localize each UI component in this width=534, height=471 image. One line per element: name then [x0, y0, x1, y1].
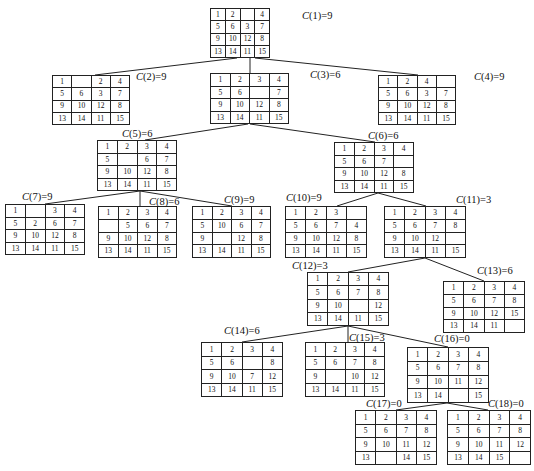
puzzle-row: 1234: [335, 143, 414, 156]
tile: 2: [405, 207, 425, 220]
tile: 15: [394, 180, 414, 193]
edge-6-to-11: [378, 193, 426, 206]
tile: 12: [510, 438, 531, 452]
tile: 12: [416, 438, 436, 452]
tile: 1: [335, 143, 355, 156]
puzzle-row: 5678: [306, 356, 385, 370]
tile: 2: [398, 76, 417, 88]
puzzle-row: 13141115: [335, 180, 414, 193]
tile: 12: [368, 299, 388, 312]
tile: 14: [328, 312, 348, 325]
tile: 7: [157, 153, 177, 166]
puzzle-row: 1234: [306, 343, 385, 357]
edge-11-to-13: [425, 258, 484, 281]
tile: 9: [211, 99, 231, 112]
tile: 6: [72, 88, 91, 100]
tile: 15: [365, 383, 385, 397]
tile: 12: [468, 375, 488, 389]
tile: 7: [489, 424, 510, 438]
tile: 12: [250, 99, 270, 112]
tile: 8: [110, 100, 129, 112]
empty-tile: [346, 207, 366, 220]
edge-3-to-6: [250, 124, 375, 142]
tile: 6: [222, 356, 242, 370]
tile: 15: [346, 245, 366, 258]
tile: 4: [416, 411, 436, 425]
tile: 14: [396, 451, 416, 465]
puzzle-row: 5678: [385, 219, 466, 232]
tile: 10: [398, 100, 417, 112]
cost-label-1: C(1)=9: [302, 10, 332, 21]
tile: 10: [117, 166, 137, 179]
tile: 1: [306, 343, 326, 357]
cost-label-18: C(18)=0: [488, 398, 524, 409]
tile: 9: [385, 232, 405, 245]
cost-function-symbol: C: [349, 332, 356, 343]
tile: 4: [251, 207, 271, 220]
puzzle-row: 124: [211, 9, 270, 21]
tile: 8: [269, 99, 289, 112]
puzzle-row: 567: [335, 155, 414, 168]
tile: 7: [345, 356, 365, 370]
puzzle-row: 1234: [308, 273, 389, 286]
puzzle-row: 5678: [444, 294, 525, 307]
cost-label-12: C(12)=3: [292, 260, 328, 271]
cost-label-14: C(14)=6: [224, 325, 260, 336]
tile: 5: [202, 356, 222, 370]
tile: 13: [193, 245, 213, 258]
cost-function-symbol: C: [136, 71, 143, 82]
tile: 11: [138, 245, 158, 258]
cost-label-11: C(11)=3: [456, 194, 491, 205]
tile: 1: [286, 207, 306, 220]
puzzle-row: 910712: [202, 370, 283, 384]
cost-value-text: (1)=9: [309, 10, 332, 21]
tile: 1: [53, 76, 72, 88]
tile: 4: [110, 76, 129, 88]
empty-tile: [376, 451, 396, 465]
tile: 8: [251, 232, 271, 245]
tile: 11: [345, 383, 365, 397]
cost-label-5: C(5)=6: [122, 128, 152, 139]
tile: 12: [137, 166, 157, 179]
tile: 14: [464, 320, 484, 333]
puzzle-row: 9128: [193, 232, 271, 245]
tile: 6: [376, 424, 396, 438]
puzzle-row: 131415: [448, 451, 531, 465]
empty-tile: [72, 76, 91, 88]
empty-tile: [250, 86, 270, 99]
puzzle-row: 5267: [6, 217, 85, 230]
tile: 11: [137, 178, 157, 191]
tile: 2: [230, 74, 250, 87]
cost-label-13: C(13)=6: [477, 265, 513, 276]
cost-value-text: (4)=9: [481, 71, 504, 82]
puzzle-row: 1234: [444, 282, 525, 295]
cost-value-text: (14)=6: [231, 325, 260, 336]
empty-tile: [240, 9, 255, 21]
tile: 7: [251, 219, 271, 232]
tile: 4: [445, 207, 465, 220]
tile: 13: [202, 383, 222, 397]
puzzle-row: 13141115: [211, 111, 289, 124]
tile: 6: [137, 153, 157, 166]
puzzle-row: 9101112: [448, 438, 531, 452]
tile: 13: [6, 242, 26, 255]
tile: 1: [211, 74, 231, 87]
tile: 14: [117, 178, 137, 191]
puzzle-state-2: 124563791012813141115: [52, 75, 130, 125]
puzzle-row: 131415: [408, 389, 489, 403]
tile: 2: [306, 207, 326, 220]
puzzle-state-8: 123456791012813141115: [98, 206, 177, 258]
cost-value-text: (15)=3: [356, 332, 385, 343]
tile: 3: [425, 207, 445, 220]
puzzle-row: 5674: [286, 219, 367, 232]
tile: 1: [356, 411, 376, 425]
tile: 12: [91, 100, 110, 112]
tile: 1: [99, 207, 119, 220]
tile: 11: [425, 245, 445, 258]
cost-label-17: C(17)=0: [366, 398, 402, 409]
puzzle-state-5: 123456791012813141115: [97, 140, 177, 191]
cost-function-symbol: C: [286, 192, 293, 203]
tile: 2: [25, 217, 45, 230]
puzzle-state-18: 123456789101112131415: [447, 410, 531, 465]
tile: 12: [45, 230, 65, 243]
